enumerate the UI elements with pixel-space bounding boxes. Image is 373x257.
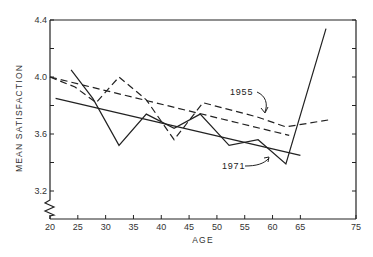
- x-axis-title: AGE: [192, 235, 214, 245]
- y-tick-label: 3.6: [34, 129, 47, 139]
- y-axis-title: MEAN SATISFACTION: [14, 64, 24, 172]
- x-tick-label: 60: [268, 222, 278, 232]
- x-tick-label: 75: [351, 222, 361, 232]
- series-1971: [71, 29, 326, 164]
- axes: [45, 20, 356, 219]
- x-tick-label: 65: [295, 222, 305, 232]
- annotation-1971-label: 1971: [222, 161, 245, 171]
- axis-ticks: 3.23.64.04.42025303540455055606575: [34, 15, 361, 232]
- annotation-1971-arrow: [245, 158, 269, 166]
- y-tick-label: 4.4: [34, 15, 47, 25]
- x-tick-label: 45: [184, 222, 194, 232]
- line-chart: 3.23.64.04.42025303540455055606575 1955 …: [0, 0, 373, 257]
- x-tick-label: 40: [156, 222, 166, 232]
- x-tick-label: 50: [212, 222, 222, 232]
- x-tick-label: 35: [128, 222, 138, 232]
- series-1971-trend: [56, 98, 301, 155]
- x-tick-label: 25: [73, 222, 83, 232]
- data-series: [50, 29, 329, 164]
- x-tick-label: 55: [240, 222, 250, 232]
- x-tick-label: 30: [101, 222, 111, 232]
- y-tick-label: 3.2: [34, 186, 47, 196]
- series-1955: [50, 77, 329, 140]
- annotation-1955-arrowhead: [261, 107, 268, 113]
- x-tick-label: 20: [45, 222, 55, 232]
- y-tick-label: 4.0: [34, 72, 47, 82]
- annotation-1955-label: 1955: [230, 87, 253, 97]
